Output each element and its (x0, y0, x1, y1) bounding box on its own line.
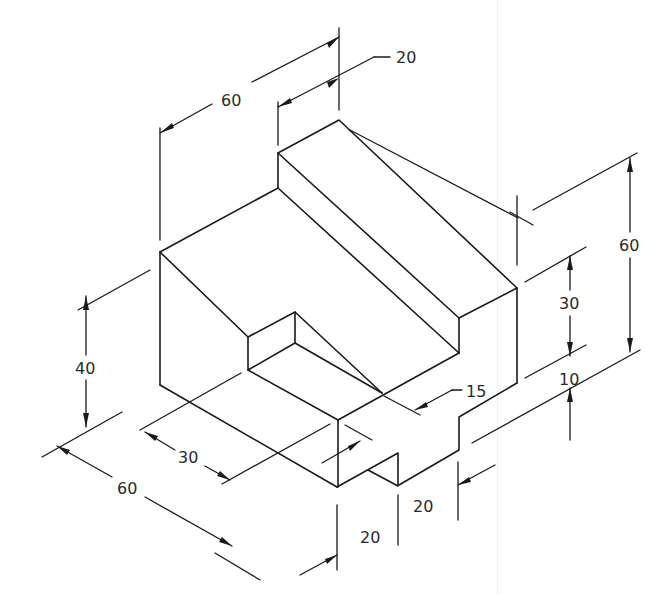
slot-face (248, 312, 295, 370)
label-slot-depth: 15 (466, 382, 486, 401)
ridge-front-edge (278, 153, 459, 318)
label-right-upper-height: 30 (559, 294, 579, 313)
object-outline (160, 120, 517, 487)
ridge-lower-edge (278, 188, 459, 353)
notch (337, 453, 398, 487)
front-top-edge (338, 353, 459, 420)
label-top-width: 60 (221, 91, 241, 110)
label-front-depth-30: 30 (178, 448, 198, 467)
isometric-drawing: 60 20 60 30 10 40 30 60 15 20 20 (0, 0, 672, 595)
label-right-step: 10 (559, 370, 579, 389)
ridge-right-top (459, 288, 517, 318)
label-notch-width-right: 20 (413, 497, 433, 516)
left-top-back-edge (160, 188, 278, 252)
label-left-height: 40 (75, 359, 95, 378)
slot-bottom-edge (248, 370, 338, 420)
label-front-depth-60: 60 (117, 479, 137, 498)
drawing-canvas: 60 20 60 30 10 40 30 60 15 20 20 (0, 0, 672, 595)
label-notch-width-front: 20 (360, 528, 380, 547)
slot-diagonal-upper (295, 312, 382, 393)
label-top-ridge: 20 (396, 48, 416, 67)
slot-diagonal-lower (295, 343, 382, 393)
dimension-lines (57, 37, 633, 575)
label-right-total-height: 60 (619, 236, 639, 255)
left-top-slope (160, 252, 248, 337)
left-bottom-edge (160, 385, 337, 487)
